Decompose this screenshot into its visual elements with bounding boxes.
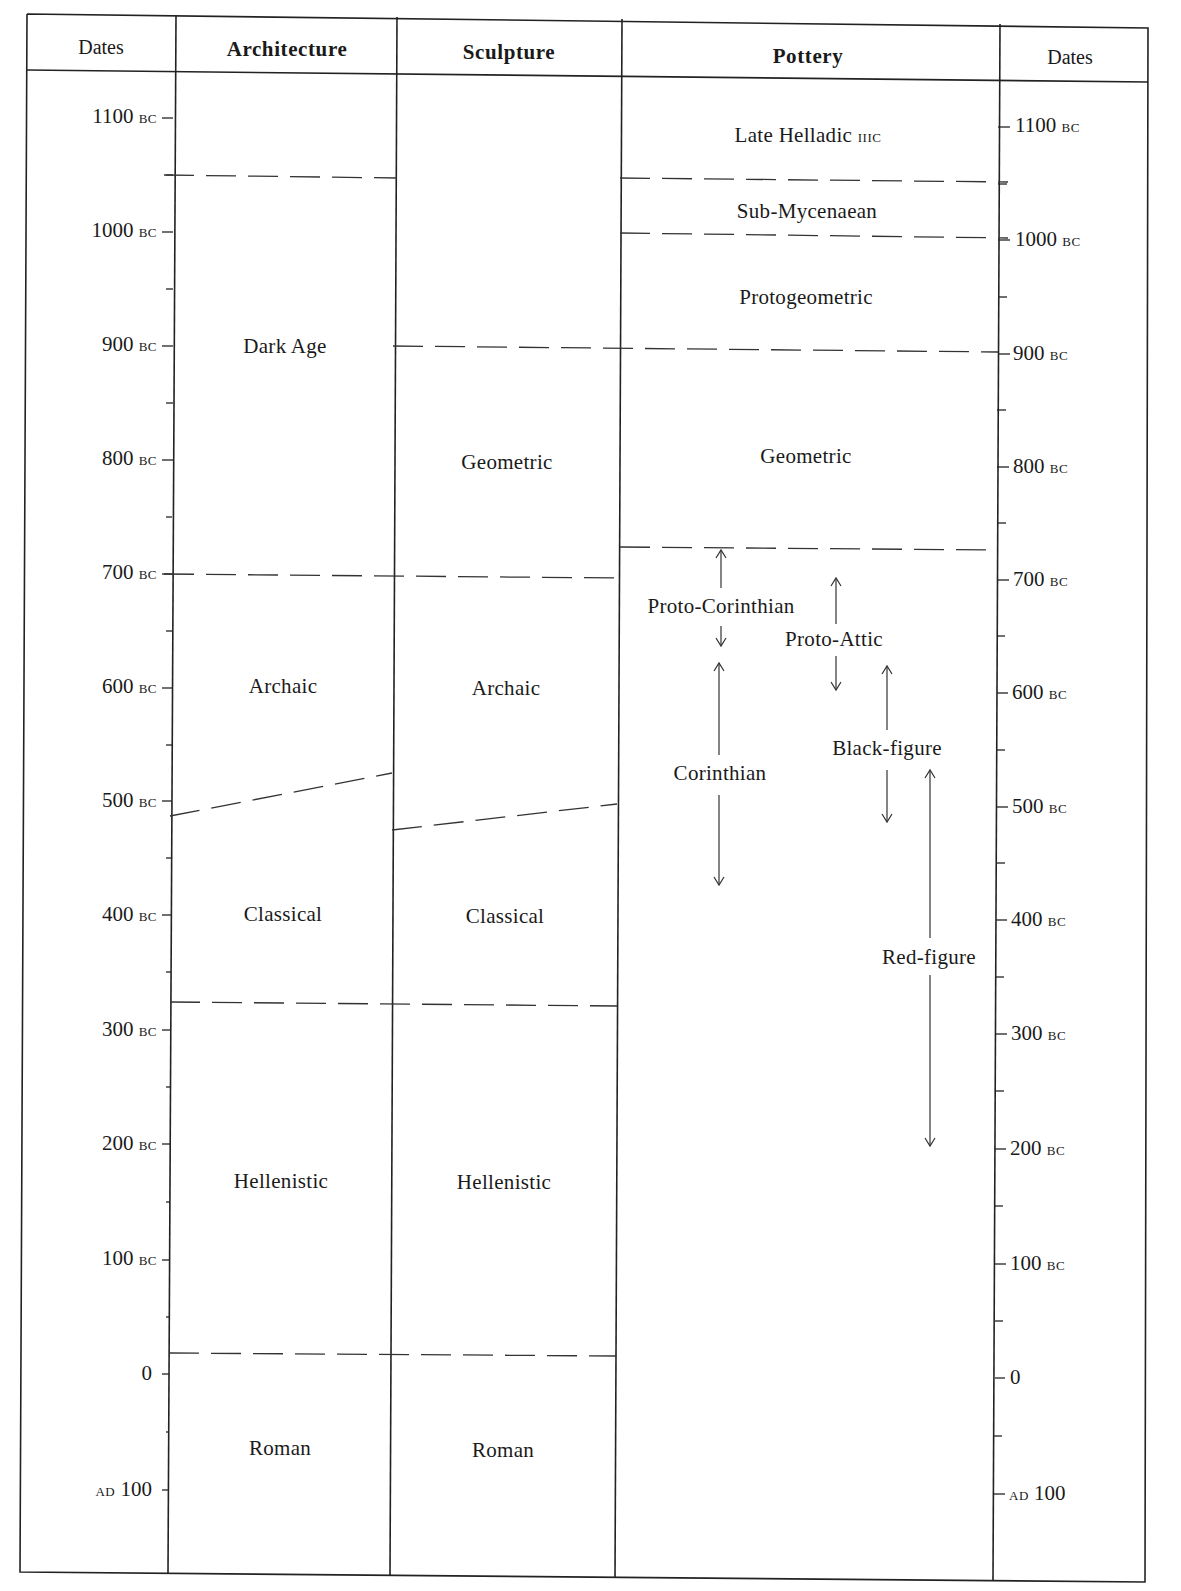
divider-pot-dates bbox=[993, 24, 1000, 1580]
date-right-800: 800 BC bbox=[1013, 454, 1068, 479]
sculp-roman: Roman bbox=[472, 1438, 534, 1463]
date-right-700: 700 BC bbox=[1013, 567, 1068, 592]
arch-dark-age: Dark Age bbox=[243, 334, 326, 359]
date-left-500: 500 BC bbox=[102, 788, 157, 813]
date-left-400: 400 BC bbox=[102, 902, 157, 927]
date-right-1000: 1000 BC bbox=[1015, 227, 1081, 252]
date-left-1000: 1000 BC bbox=[91, 218, 157, 243]
pot-boundary-protogeometric bbox=[620, 233, 1008, 238]
date-left-300: 300 BC bbox=[102, 1017, 157, 1042]
header-divider bbox=[27, 70, 1148, 82]
date-right-400: 400 BC bbox=[1011, 907, 1066, 932]
date-left-ad100: AD 100 bbox=[95, 1477, 152, 1502]
date-right-300: 300 BC bbox=[1011, 1021, 1066, 1046]
sculp-geometric: Geometric bbox=[461, 450, 552, 475]
boundary-hellenistic bbox=[170, 1002, 617, 1006]
header-dates-right: Dates bbox=[1047, 46, 1093, 69]
chart-lines bbox=[0, 0, 1181, 1591]
sculp-pot-boundary-geometric bbox=[393, 346, 998, 352]
date-right-100: 100 BC bbox=[1010, 1251, 1065, 1276]
pot-proto-attic: Proto-Attic bbox=[785, 627, 883, 652]
date-right-1100: 1100 BC bbox=[1015, 113, 1080, 138]
pot-late-helladic: Late Helladic IIIC bbox=[735, 123, 882, 148]
date-left-200: 200 BC bbox=[102, 1131, 157, 1156]
arch-classical: Classical bbox=[244, 902, 323, 927]
header-architecture: Architecture bbox=[227, 37, 348, 62]
boundary-roman bbox=[169, 1353, 616, 1356]
arch-roman: Roman bbox=[249, 1436, 311, 1461]
sculp-boundary-classical bbox=[392, 804, 617, 830]
date-left-600: 600 BC bbox=[102, 674, 157, 699]
chronology-chart: Dates Architecture Sculpture Pottery Dat… bbox=[0, 0, 1181, 1591]
arch-boundary-classical bbox=[170, 773, 392, 816]
pot-red-figure: Red-figure bbox=[882, 945, 976, 970]
sculp-classical: Classical bbox=[466, 904, 545, 929]
date-left-1100: 1100 BC bbox=[92, 104, 157, 129]
date-right-200: 200 BC bbox=[1010, 1136, 1065, 1161]
pot-boundary-sub-mycenaean bbox=[620, 178, 1008, 182]
sculp-archaic: Archaic bbox=[472, 676, 541, 701]
arch-boundary-archaic bbox=[164, 574, 618, 578]
date-right-ad100: AD 100 bbox=[1009, 1481, 1066, 1506]
arch-hellenistic: Hellenistic bbox=[234, 1169, 328, 1194]
pot-boundary-archaic bbox=[620, 547, 998, 550]
pot-geometric: Geometric bbox=[760, 444, 851, 469]
arch-boundary-dark-age bbox=[164, 175, 397, 178]
frame bbox=[20, 14, 1148, 1582]
sculp-hellenistic: Hellenistic bbox=[457, 1170, 551, 1195]
divider-sculp-pot bbox=[615, 19, 622, 1578]
date-left-0: 0 bbox=[142, 1361, 153, 1386]
header-pottery: Pottery bbox=[773, 44, 844, 69]
pot-corinthian: Corinthian bbox=[674, 761, 767, 786]
date-left-100: 100 BC bbox=[102, 1246, 157, 1271]
divider-arch-sculp bbox=[390, 17, 397, 1576]
divider-dates-arch bbox=[168, 15, 176, 1573]
arch-archaic: Archaic bbox=[249, 674, 318, 699]
date-left-800: 800 BC bbox=[102, 446, 157, 471]
date-right-500: 500 BC bbox=[1012, 794, 1067, 819]
date-right-600: 600 BC bbox=[1012, 680, 1067, 705]
date-right-900: 900 BC bbox=[1013, 341, 1068, 366]
header-dates-left: Dates bbox=[78, 36, 124, 59]
pot-black-figure: Black-figure bbox=[832, 736, 942, 761]
pot-protogeometric: Protogeometric bbox=[739, 285, 873, 310]
date-left-900: 900 BC bbox=[102, 332, 157, 357]
date-right-0: 0 bbox=[1010, 1365, 1021, 1390]
pot-proto-corinthian: Proto-Corinthian bbox=[647, 594, 794, 619]
pot-sub-mycenaean: Sub-Mycenaean bbox=[737, 199, 877, 224]
header-sculpture: Sculpture bbox=[463, 40, 556, 65]
date-left-700: 700 BC bbox=[102, 560, 157, 585]
